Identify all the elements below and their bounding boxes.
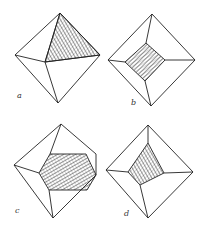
figure-a — [15, 13, 100, 103]
crystal-edge — [15, 55, 45, 62]
crystal-edge — [14, 165, 39, 173]
figure-c — [14, 124, 96, 218]
hatched-face-texture — [39, 154, 96, 190]
figure-b — [108, 14, 195, 106]
figure-label-b: b — [131, 98, 136, 107]
crystal-edge — [106, 170, 128, 172]
figure-label-d: d — [124, 209, 129, 218]
hatched-face-texture — [125, 43, 165, 81]
hatched-face-texture — [45, 13, 100, 62]
figure-label-c: c — [15, 206, 19, 215]
crystal-edge — [45, 62, 58, 103]
crystal-edge — [108, 60, 125, 62]
crystal-edge — [146, 14, 152, 43]
figure-d — [106, 125, 193, 218]
crystal-edge — [164, 172, 193, 173]
crystal-diagram — [0, 0, 210, 230]
figure-label-a: a — [17, 91, 22, 100]
